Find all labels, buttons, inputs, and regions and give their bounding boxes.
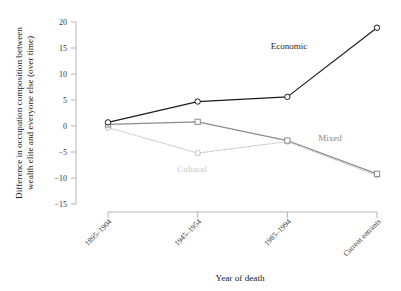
x-axis-ticks (108, 212, 377, 218)
series-markers (105, 25, 379, 178)
x-axis-title: Year of death (215, 273, 264, 283)
y-tick-label: −15 (54, 200, 67, 209)
y-tick-label: −10 (54, 174, 67, 183)
data-point-economic (374, 25, 379, 30)
x-tick-label: Current entrants (341, 217, 382, 258)
series-label-cultural: Cultural (177, 164, 207, 174)
chart-figure: 20151050−5−10−15 1895–19041945–19541985–… (0, 0, 401, 291)
y-axis-ticks (71, 22, 76, 204)
y-axis-tick-labels: 20151050−5−10−15 (54, 18, 67, 209)
y-axis-title-line-1: Difference in occupation composition bet… (14, 27, 24, 199)
y-tick-label: 20 (59, 18, 67, 27)
y-tick-label: 0 (63, 122, 67, 131)
series-line-economic (108, 28, 377, 123)
y-axis-title-line-2: wealth elite and everyone else (over tim… (25, 36, 35, 190)
line-chart: 20151050−5−10−15 1895–19041945–19541985–… (0, 0, 401, 291)
data-point-mixed (195, 119, 200, 124)
data-point-cultural (195, 150, 200, 155)
data-point-mixed (285, 138, 290, 143)
x-tick-label: 1895–1904 (83, 217, 114, 248)
series-lines (108, 28, 377, 176)
x-tick-label: 1985–1994 (262, 217, 293, 248)
data-point-economic (195, 99, 200, 104)
data-point-economic (285, 94, 290, 99)
x-tick-label: 1945–1954 (173, 217, 204, 248)
data-point-economic (105, 120, 110, 125)
x-axis-tick-labels: 1895–19041945–19541985–1994Current entra… (83, 217, 383, 258)
series-annotations: EconomicMixedCultural (177, 41, 342, 174)
y-tick-label: −5 (58, 148, 67, 157)
series-label-economic: Economic (271, 41, 308, 51)
series-label-mixed: Mixed (318, 133, 342, 143)
y-tick-label: 10 (59, 70, 67, 79)
y-tick-label: 15 (59, 44, 67, 53)
y-tick-label: 5 (63, 96, 67, 105)
data-point-mixed (374, 171, 379, 176)
